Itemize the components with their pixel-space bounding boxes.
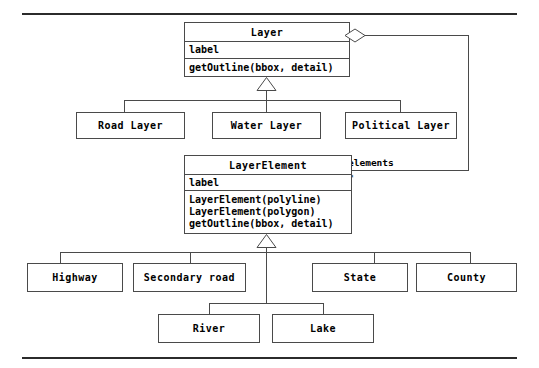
- class-box-lake[interactable]: Lake: [272, 314, 374, 343]
- generalization-drop-political-layer: [400, 100, 401, 112]
- class-name-state: State: [344, 272, 377, 283]
- class-name-compartment-layer-element: LayerElement: [185, 156, 351, 175]
- class-name-political-layer: Political Layer: [352, 120, 450, 131]
- class-box-highway[interactable]: Highway: [27, 263, 123, 292]
- operation-layer-element-ctor-polyline: LayerElement(polyline): [189, 194, 351, 206]
- class-name-lake: Lake: [310, 323, 336, 334]
- generalization-drop-secondary-road: [190, 252, 191, 263]
- class-name-water-layer: Water Layer: [231, 120, 303, 131]
- class-box-county[interactable]: County: [416, 263, 517, 292]
- generalization-drop-state: [374, 252, 375, 263]
- attribute-compartment-layer: label: [185, 42, 349, 59]
- uml-class-diagram: Layer label getOutline(bbox, detail) ele…: [0, 0, 539, 368]
- class-box-secondary-road[interactable]: Secondary road: [133, 263, 246, 292]
- class-name-secondary-road: Secondary road: [144, 272, 235, 283]
- class-box-river[interactable]: River: [158, 314, 260, 343]
- class-name-highway: Highway: [52, 272, 98, 283]
- class-name-river: River: [193, 323, 226, 334]
- association-role-label: elements: [348, 157, 394, 168]
- generalization-drop-water-layer: [266, 100, 267, 112]
- generalization-drop-county: [470, 252, 471, 263]
- generalization-triangle-layer-element-icon: [256, 234, 277, 248]
- operation-compartment-layer-element: LayerElement(polyline) LayerElement(poly…: [185, 191, 351, 233]
- generalization-drop-road-layer: [124, 100, 125, 112]
- bottom-divider-rule: [22, 357, 517, 359]
- aggregation-line-bottom: [352, 170, 469, 171]
- class-box-political-layer[interactable]: Political Layer: [345, 112, 457, 139]
- generalization-drop-lake: [323, 303, 324, 314]
- attribute-layer-element-label: label: [189, 177, 351, 189]
- class-name-layer-element: LayerElement: [229, 160, 307, 171]
- class-name-compartment-layer: Layer: [185, 23, 349, 42]
- class-box-water-layer[interactable]: Water Layer: [212, 112, 321, 139]
- attribute-compartment-layer-element: label: [185, 175, 351, 191]
- operation-layer-getoutline: getOutline(bbox, detail): [189, 62, 349, 74]
- generalization-triangle-layer-icon: [256, 77, 277, 91]
- class-name-road-layer: Road Layer: [98, 120, 163, 131]
- aggregation-line-top: [365, 35, 468, 36]
- class-name-layer: Layer: [251, 27, 284, 38]
- generalization-stem-layer-element: [266, 247, 267, 303]
- aggregation-diamond-icon: [344, 28, 366, 43]
- attribute-layer-label: label: [189, 44, 349, 56]
- generalization-bus-water-elements: [209, 303, 324, 304]
- generalization-drop-river: [209, 303, 210, 314]
- top-divider-rule: [22, 13, 517, 15]
- class-box-road-layer[interactable]: Road Layer: [76, 112, 185, 139]
- operation-layer-element-ctor-polygon: LayerElement(polygon): [189, 206, 351, 218]
- generalization-bus-layer: [124, 100, 401, 101]
- class-box-layer[interactable]: Layer label getOutline(bbox, detail): [184, 22, 350, 77]
- class-name-county: County: [447, 272, 486, 283]
- generalization-drop-highway: [60, 252, 61, 263]
- class-box-layer-element[interactable]: LayerElement label LayerElement(polyline…: [184, 155, 352, 234]
- class-box-state[interactable]: State: [312, 263, 408, 292]
- operation-layer-element-getoutline: getOutline(bbox, detail): [189, 218, 351, 230]
- aggregation-line-right: [468, 35, 469, 171]
- generalization-bus-layer-element: [60, 252, 471, 253]
- operation-compartment-layer: getOutline(bbox, detail): [185, 59, 349, 76]
